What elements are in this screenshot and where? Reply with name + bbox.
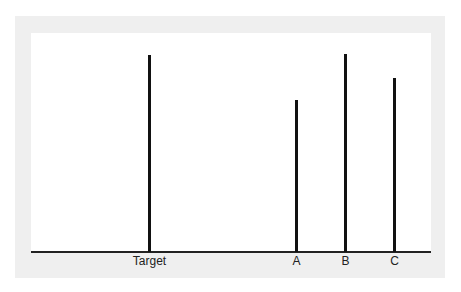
baseline <box>31 251 431 253</box>
label-b: B <box>341 254 349 268</box>
line-c <box>393 78 396 252</box>
line-target <box>148 55 151 252</box>
line-a <box>295 100 298 252</box>
label-target: Target <box>133 254 166 268</box>
label-c: C <box>390 254 399 268</box>
label-a: A <box>292 254 300 268</box>
line-b <box>344 54 347 252</box>
figure-panel <box>31 33 431 252</box>
